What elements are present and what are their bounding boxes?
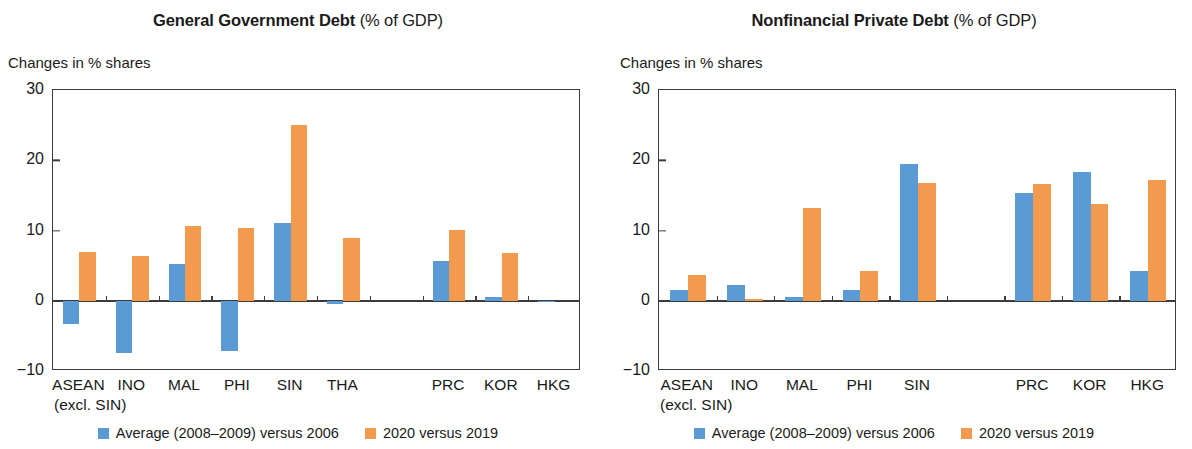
bar-tha-blue xyxy=(327,301,343,304)
x-axis-tick-mark xyxy=(528,296,529,302)
y-axis-caption: Changes in % shares xyxy=(8,54,151,72)
panel-title: General Government Debt (% of GDP) xyxy=(0,10,596,30)
x-category-label: ASEAN xyxy=(660,376,713,394)
y-axis-tick-label: 10 xyxy=(606,222,650,238)
bar-sin-orange xyxy=(918,183,936,301)
y-axis-tick-mark xyxy=(53,230,60,231)
x-category-label: MAL xyxy=(786,376,818,394)
y-axis-tick-mark xyxy=(659,160,666,161)
bar-kor-blue xyxy=(485,297,501,301)
y-axis-tick-label: 0 xyxy=(0,292,44,308)
x-axis-tick-mark xyxy=(159,296,160,302)
y-axis-tick-label: 20 xyxy=(606,151,650,167)
x-axis-tick-mark xyxy=(889,296,890,302)
bar-ino-orange xyxy=(745,299,763,300)
x-axis-tick-mark xyxy=(317,296,318,302)
plot-area xyxy=(52,89,580,370)
bar-asean-blue xyxy=(670,290,688,301)
legend-swatch-orange-icon xyxy=(365,428,376,439)
y-axis-tick-label: −10 xyxy=(606,362,650,378)
bar-prc-orange xyxy=(1033,184,1051,301)
x-category-label: MAL xyxy=(168,376,200,394)
panel-title-main: General Government Debt xyxy=(153,11,355,29)
x-axis-tick-mark xyxy=(832,296,833,302)
bar-mal-blue xyxy=(169,264,185,301)
x-axis-tick-mark xyxy=(1004,296,1005,302)
x-axis-tick-mark xyxy=(264,296,265,302)
x-axis-tick-mark xyxy=(423,296,424,302)
x-category-label: PHI xyxy=(847,376,873,394)
bar-phi-orange xyxy=(860,271,878,301)
legend-label-orange: 2020 versus 2019 xyxy=(979,424,1094,442)
x-category-label: THA xyxy=(327,376,358,394)
x-category-note-asean: (excl. SIN) xyxy=(54,396,126,414)
panel-nonfinancial-private-debt: Nonfinancial Private Debt (% of GDP) Cha… xyxy=(596,0,1192,449)
bar-ino-blue xyxy=(116,301,132,353)
y-axis-tick-label: 30 xyxy=(606,81,650,97)
panel-title-main: Nonfinancial Private Debt xyxy=(751,11,948,29)
bar-prc-orange xyxy=(449,230,465,301)
bar-hkg-orange xyxy=(1148,180,1166,301)
two-panel-bar-chart-figure: General Government Debt (% of GDP) Chang… xyxy=(0,0,1192,449)
x-axis-tick-mark xyxy=(947,296,948,302)
bar-mal-orange xyxy=(803,208,821,301)
y-axis-tick-label: 0 xyxy=(606,292,650,308)
bar-hkg-blue xyxy=(538,301,554,302)
legend-label-blue: Average (2008–2009) versus 2006 xyxy=(116,424,339,442)
legend-swatch-orange-icon xyxy=(961,428,972,439)
bar-sin-blue xyxy=(274,223,290,300)
x-category-label: PHI xyxy=(224,376,250,394)
panel-title-sub: (% of GDP) xyxy=(360,11,443,29)
legend: Average (2008–2009) versus 2006 2020 ver… xyxy=(596,424,1192,442)
x-category-label: KOR xyxy=(484,376,518,394)
x-axis-tick-mark xyxy=(774,296,775,302)
x-category-label: PRC xyxy=(1016,376,1049,394)
bar-phi-blue xyxy=(221,301,237,352)
legend-label-orange: 2020 versus 2019 xyxy=(383,424,498,442)
legend-label-blue: Average (2008–2009) versus 2006 xyxy=(712,424,935,442)
x-category-note-asean: (excl. SIN) xyxy=(660,396,732,414)
y-axis-tick-mark xyxy=(659,230,666,231)
bar-asean-orange xyxy=(79,252,95,301)
x-axis-tick-mark xyxy=(717,296,718,302)
bar-prc-blue xyxy=(433,261,449,300)
x-category-label: SIN xyxy=(904,376,930,394)
plot-area xyxy=(658,89,1176,370)
x-category-label: INO xyxy=(117,376,145,394)
x-axis-tick-mark xyxy=(1119,296,1120,302)
bar-kor-orange xyxy=(1091,204,1109,301)
bar-asean-orange xyxy=(688,275,706,300)
y-axis-tick-label: 10 xyxy=(0,222,44,238)
x-category-label: SIN xyxy=(277,376,303,394)
bar-phi-orange xyxy=(238,228,254,300)
x-category-label: HKG xyxy=(537,376,571,394)
legend: Average (2008–2009) versus 2006 2020 ver… xyxy=(0,424,596,442)
panel-title-sub: (% of GDP) xyxy=(953,11,1036,29)
bar-tha-orange xyxy=(343,238,359,301)
bar-kor-blue xyxy=(1073,172,1091,301)
y-axis-tick-mark xyxy=(53,160,60,161)
x-category-label: PRC xyxy=(432,376,465,394)
y-axis-tick-label: −10 xyxy=(0,362,44,378)
legend-item-average-2008-2009: Average (2008–2009) versus 2006 xyxy=(98,424,339,442)
x-axis-tick-mark xyxy=(370,296,371,302)
bar-sin-blue xyxy=(900,164,918,300)
bar-hkg-blue xyxy=(1130,271,1148,301)
bar-mal-orange xyxy=(185,226,201,300)
bar-ino-orange xyxy=(132,256,148,300)
bar-sin-orange xyxy=(291,125,307,301)
bar-asean-blue xyxy=(63,301,79,324)
legend-swatch-blue-icon xyxy=(98,428,109,439)
legend-item-2020-versus-2019: 2020 versus 2019 xyxy=(365,424,498,442)
bar-mal-blue xyxy=(785,297,803,301)
panel-general-government-debt: General Government Debt (% of GDP) Chang… xyxy=(0,0,596,449)
legend-item-average-2008-2009: Average (2008–2009) versus 2006 xyxy=(694,424,935,442)
legend-item-2020-versus-2019: 2020 versus 2019 xyxy=(961,424,1094,442)
bar-prc-blue xyxy=(1015,193,1033,300)
x-category-label: KOR xyxy=(1073,376,1107,394)
bar-phi-blue xyxy=(843,290,861,301)
x-axis-tick-mark xyxy=(211,296,212,302)
bar-ino-blue xyxy=(727,285,745,300)
x-category-label: INO xyxy=(731,376,759,394)
x-axis-tick-mark xyxy=(475,296,476,302)
